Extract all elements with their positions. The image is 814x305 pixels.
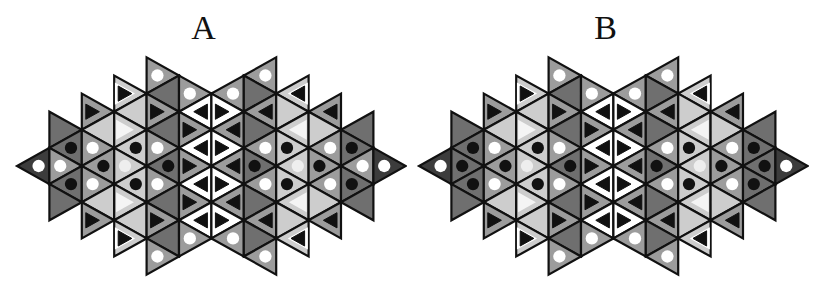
black-dot-icon — [456, 160, 468, 172]
white-dot-icon — [259, 69, 271, 81]
white-dot-icon — [184, 87, 196, 99]
white-dot-icon — [32, 160, 44, 172]
white-dot-icon — [694, 160, 706, 172]
white-dot-icon — [553, 69, 565, 81]
white-dot-icon — [488, 178, 500, 190]
black-dot-icon — [715, 160, 727, 172]
white-dot-icon — [780, 160, 792, 172]
white-dot-icon — [521, 160, 533, 172]
black-dot-icon — [467, 142, 479, 154]
white-dot-icon — [86, 178, 98, 190]
black-dot-icon — [683, 178, 695, 190]
black-dot-icon — [499, 160, 511, 172]
black-dot-icon — [748, 178, 760, 190]
white-dot-icon — [629, 87, 641, 99]
lattice-cells — [17, 57, 406, 274]
black-dot-icon — [650, 160, 662, 172]
white-dot-icon — [553, 142, 565, 154]
black-dot-icon — [281, 142, 293, 154]
white-dot-icon — [661, 69, 673, 81]
black-dot-icon — [346, 142, 358, 154]
white-dot-icon — [378, 160, 390, 172]
white-dot-icon — [86, 142, 98, 154]
black-dot-icon — [564, 160, 576, 172]
white-dot-icon — [151, 69, 163, 81]
black-dot-icon — [346, 178, 358, 190]
white-dot-icon — [151, 250, 163, 262]
black-dot-icon — [532, 142, 544, 154]
white-dot-icon — [488, 142, 500, 154]
black-dot-icon — [532, 178, 544, 190]
white-dot-icon — [54, 160, 66, 172]
white-dot-icon — [259, 178, 271, 190]
white-dot-icon — [227, 87, 239, 99]
black-dot-icon — [758, 160, 770, 172]
black-dot-icon — [313, 160, 325, 172]
white-dot-icon — [119, 160, 131, 172]
black-dot-icon — [65, 178, 77, 190]
white-dot-icon — [259, 142, 271, 154]
white-dot-icon — [324, 142, 336, 154]
white-dot-icon — [292, 160, 304, 172]
white-dot-icon — [629, 232, 641, 244]
white-dot-icon — [227, 232, 239, 244]
white-dot-icon — [259, 250, 271, 262]
white-dot-icon — [151, 142, 163, 154]
white-dot-icon — [586, 87, 598, 99]
black-dot-icon — [130, 178, 142, 190]
white-dot-icon — [661, 178, 673, 190]
black-dot-icon — [683, 142, 695, 154]
black-dot-icon — [281, 178, 293, 190]
white-dot-icon — [553, 178, 565, 190]
white-dot-icon — [726, 178, 738, 190]
black-dot-icon — [130, 142, 142, 154]
black-dot-icon — [467, 178, 479, 190]
black-dot-icon — [65, 142, 77, 154]
lattice-cells — [419, 57, 808, 274]
white-dot-icon — [726, 142, 738, 154]
white-dot-icon — [151, 178, 163, 190]
white-dot-icon — [324, 178, 336, 190]
white-dot-icon — [434, 160, 446, 172]
panel-b: B — [402, 0, 809, 305]
white-dot-icon — [184, 232, 196, 244]
black-dot-icon — [97, 160, 109, 172]
black-dot-icon — [248, 160, 260, 172]
triangle-pattern-b — [402, 0, 809, 305]
white-dot-icon — [553, 250, 565, 262]
black-dot-icon — [748, 142, 760, 154]
white-dot-icon — [661, 142, 673, 154]
white-dot-icon — [661, 250, 673, 262]
black-dot-icon — [162, 160, 174, 172]
white-dot-icon — [356, 160, 368, 172]
panel-a: A — [0, 0, 407, 305]
triangle-pattern-a — [0, 0, 407, 305]
white-dot-icon — [586, 232, 598, 244]
